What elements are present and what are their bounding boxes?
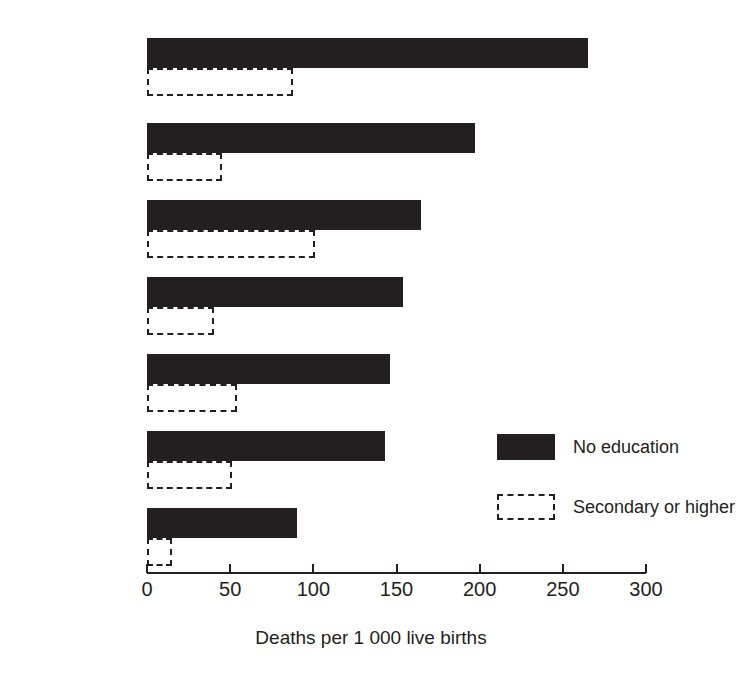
bar-group-philippines: Philippines: [147, 268, 646, 328]
x-axis-tick-label-100: 100: [297, 578, 330, 600]
x-axis-tick-100: [312, 564, 314, 573]
bar-group-bolivia: Bolivia: [147, 114, 646, 174]
bar-secondary-or-higher-philippines: [147, 307, 214, 335]
bar-no-education-morocco: [147, 508, 297, 538]
bar-group-mali: Mali: [147, 29, 646, 89]
bar-secondary-or-higher-mali: [147, 68, 293, 96]
x-axis-tick-150: [396, 564, 398, 573]
x-axis-tick-label-300: 300: [629, 578, 662, 600]
bar-secondary-or-higher-morocco: [147, 538, 172, 566]
bar-secondary-or-higher-yemen: [147, 461, 232, 489]
bar-no-education-nepal: [147, 354, 390, 384]
legend-label-secondary-or-higher: Secondary or higher: [573, 497, 735, 517]
legend-swatch-no-education: [497, 434, 555, 460]
x-axis-tick-label-200: 200: [463, 578, 496, 600]
plot-area: Mali Bolivia Uganda Philippines Nepal: [147, 20, 646, 568]
bar-no-education-uganda: [147, 200, 421, 230]
x-axis-tick-label-250: 250: [546, 578, 579, 600]
legend-swatch-secondary-or-higher: [497, 494, 555, 520]
x-axis-tick-200: [479, 564, 481, 573]
x-axis-tick-label-50: 50: [219, 578, 241, 600]
bar-no-education-yemen: [147, 431, 385, 461]
bar-no-education-philippines: [147, 277, 403, 307]
bar-secondary-or-higher-nepal: [147, 384, 237, 412]
x-axis-tick-250: [562, 564, 564, 573]
legend-label-no-education: No education: [573, 437, 679, 457]
bar-secondary-or-higher-bolivia: [147, 153, 222, 181]
x-axis-tick-label-0: 0: [141, 578, 152, 600]
x-axis-tick-0: [146, 564, 148, 573]
bar-no-education-bolivia: [147, 123, 475, 153]
x-axis-title: Deaths per 1 000 live births: [0, 627, 742, 649]
bar-no-education-mali: [147, 38, 588, 68]
bar-group-nepal: Nepal: [147, 345, 646, 405]
x-axis-tick-300: [645, 564, 647, 573]
x-axis-tick-label-150: 150: [380, 578, 413, 600]
infant-mortality-bar-chart: Mali Bolivia Uganda Philippines Nepal: [0, 0, 742, 682]
bar-group-morocco: Morocco: [147, 499, 646, 559]
bar-secondary-or-higher-uganda: [147, 230, 315, 258]
bar-group-uganda: Uganda: [147, 191, 646, 251]
bar-group-yemen: Yemen: [147, 422, 646, 482]
x-axis-tick-50: [229, 564, 231, 573]
